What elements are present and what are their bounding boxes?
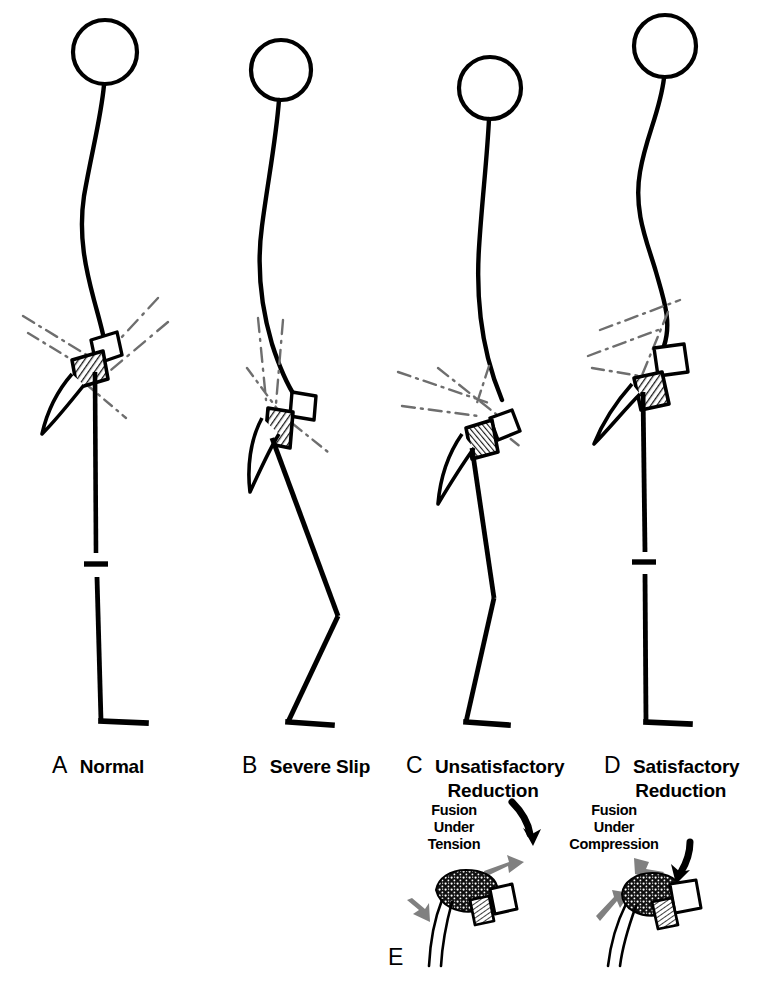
- head-a: [73, 20, 137, 84]
- sacrum-hook-c: [438, 434, 474, 504]
- fusion-compression-line3: Compression: [548, 836, 680, 853]
- panel-letter-a: A: [52, 752, 67, 778]
- panel-label-d: D Satisfactory Reduction: [604, 752, 739, 802]
- vertebra-sacrum-compression: [652, 898, 678, 929]
- panel-c-figure: [398, 57, 522, 725]
- leg-lower-d: [645, 574, 646, 722]
- leg-upper-c: [472, 448, 494, 598]
- foot-a: [101, 721, 146, 723]
- sacrum-hook-a: [42, 374, 84, 434]
- panel-d-figure: [588, 15, 696, 724]
- foot-c: [466, 722, 508, 725]
- fusion-compression-line2: Under: [548, 819, 680, 836]
- figure-root: A Normal B Severe Slip C Unsatisfactory …: [0, 0, 766, 1002]
- leg-upper-d: [643, 392, 645, 552]
- panel-letter-d: D: [604, 752, 621, 778]
- head-c: [459, 57, 521, 119]
- panel-caption-c: Unsatisfactory: [435, 756, 564, 777]
- sacral-ala-compression: [608, 904, 636, 966]
- panel-letter-e: E: [388, 944, 403, 971]
- panel-caption-c-line2: Reduction: [422, 780, 564, 802]
- panel-caption-d: Satisfactory: [633, 756, 739, 777]
- spine-curve-c: [478, 119, 502, 400]
- head-b: [251, 40, 311, 100]
- panel-caption-b: Severe Slip: [270, 756, 370, 777]
- leg-lower-c: [466, 598, 494, 722]
- panel-b-figure: [247, 40, 338, 725]
- spine-curve-a: [82, 85, 105, 344]
- black-load-arrow-compression: [681, 842, 690, 872]
- bottom-caption-strip: [0, 992, 766, 1002]
- panel-a-figure: [23, 20, 168, 723]
- panel-label-a: A Normal: [52, 752, 144, 779]
- sacrum-hook-d: [594, 384, 640, 444]
- fusion-tension-line3: Tension: [404, 836, 504, 853]
- panel-label-c: C Unsatisfactory Reduction: [406, 752, 564, 802]
- panel-label-b: B Severe Slip: [242, 752, 370, 779]
- black-load-arrow-tension: [512, 802, 530, 834]
- leg-upper-a: [95, 372, 96, 553]
- foot-b: [288, 722, 332, 725]
- panel-letter-b: B: [242, 752, 257, 778]
- head-d: [634, 15, 696, 77]
- vertebra-sacrum-d: [634, 372, 669, 410]
- fusion-compression-diagram: [596, 842, 701, 966]
- vertebra-l5-tension: [490, 884, 517, 914]
- panel-caption-a: Normal: [80, 756, 144, 777]
- sacral-ala-tension: [429, 900, 452, 966]
- panel-letter-c: C: [406, 752, 423, 778]
- panel-caption-d-line2: Reduction: [622, 780, 739, 802]
- foot-d: [646, 722, 690, 724]
- leg-lower-b: [288, 616, 338, 722]
- leg-lower-a: [97, 577, 101, 721]
- vertebra-sacrum-tension: [470, 896, 494, 925]
- spine-curve-b: [260, 100, 296, 398]
- fusion-tension-line1: Fusion: [404, 802, 504, 819]
- fusion-compression-line1: Fusion: [548, 802, 680, 819]
- gray-arrow-up-right-tension: [484, 855, 524, 877]
- leg-upper-b: [272, 438, 338, 616]
- fusion-tension-caption: Fusion Under Tension: [404, 802, 504, 853]
- fusion-tension-line2: Under: [404, 819, 504, 836]
- gray-arrow-down-left-tension: [407, 898, 430, 922]
- fusion-compression-caption: Fusion Under Compression: [548, 802, 680, 853]
